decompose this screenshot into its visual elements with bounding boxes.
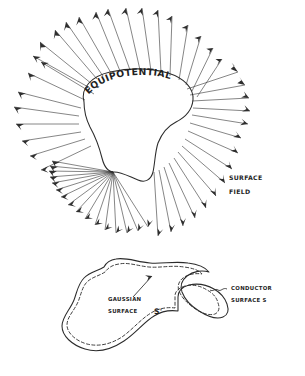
equipotential-label-text: EQUIPOTENTIAL [82,66,173,96]
gaussian-surface-dashed [67,263,219,345]
gaussian-leader [133,272,152,297]
figure-root: EQUIPOTENTIAL SURFACE FIELD GAUSSIAN [0,0,305,376]
surface-field-lines [14,8,250,236]
field-arrowheads-bottom-right [158,131,242,236]
field-line-group-left [14,73,91,170]
conductor-label-line1: CONDUCTOR [231,285,273,291]
conductor-leader [210,289,227,291]
field-line-group-right [187,72,250,124]
gaussian-symbol: S' [154,307,162,316]
equipotential-label: EQUIPOTENTIAL [82,66,173,96]
gaussian-label-line2: SURFACE [108,308,137,314]
top-panel: EQUIPOTENTIAL SURFACE FIELD [14,8,262,236]
field-line-group-bottom-right [154,123,241,236]
surface-field-label-line1: SURFACE [229,174,262,181]
field-arrowheads-right [231,63,250,126]
surface-field-label-line2: FIELD [229,188,250,195]
field-line-group-top [33,8,222,97]
bottom-panel: GAUSSIAN SURFACE S' CONDUCTOR SURFACE S [62,259,273,351]
physics-diagram-svg: EQUIPOTENTIAL SURFACE FIELD GAUSSIAN [0,0,305,376]
conductor-surface-outline [62,259,228,351]
field-arrowheads-left [14,73,49,173]
gaussian-label-line1: GAUSSIAN [108,296,142,302]
conductor-label-line2: SURFACE S [231,297,267,303]
